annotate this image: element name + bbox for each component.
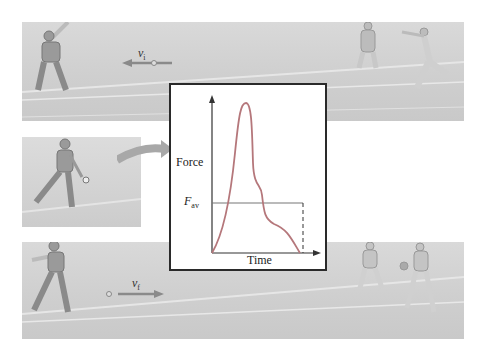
curved-arrow-icon [117, 140, 177, 180]
x-axis-label: Time [247, 253, 272, 268]
avg-force-label: Fav [184, 194, 199, 210]
force-curve-plot [169, 83, 327, 271]
x-axis-arrow-icon [313, 250, 321, 256]
y-axis-label: Force [176, 155, 203, 170]
force-time-graph: Force Fav Time [169, 83, 327, 271]
y-axis-arrow-icon [209, 95, 215, 103]
